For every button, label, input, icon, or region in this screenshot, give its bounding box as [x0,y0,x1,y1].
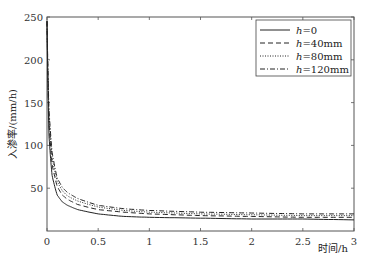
infiltration-rate-chart: 50100150200250 00.511.522.53 入渗率/(mm/h) … [0,0,365,264]
y-tick-label: 250 [24,12,43,23]
x-tick-label: 2 [248,236,254,247]
x-tick-label: 1 [146,236,152,247]
x-tick-label: 0.5 [90,236,106,247]
x-tick-label: 0 [44,236,50,247]
y-tick-label: 100 [24,140,43,151]
y-tick-label: 50 [30,183,43,194]
x-tick-label: 1.5 [193,236,209,247]
x-tick-label: 3 [351,236,357,247]
y-tick-label: 150 [24,98,43,109]
y-tick-label: 200 [24,55,43,66]
x-tick-label: 2.5 [295,236,311,247]
legend-entry-label: h=120mm [296,64,349,75]
y-axis-label: 入渗率/(mm/h) [6,89,18,159]
legend-entry-label: h=80mm [296,51,343,62]
x-axis-label: 时间/h [318,242,348,254]
legend-entry-label: h=0 [296,25,317,36]
legend-entry-label: h=40mm [296,38,343,49]
legend: h=0h=40mmh=80mmh=120mm [256,20,351,76]
